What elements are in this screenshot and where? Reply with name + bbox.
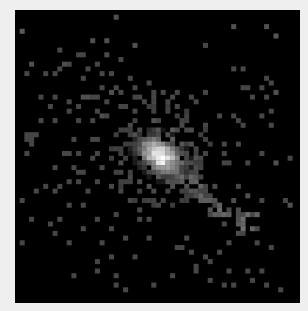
astronomical-image — [15, 10, 300, 303]
counts-image-canvas — [15, 10, 300, 303]
